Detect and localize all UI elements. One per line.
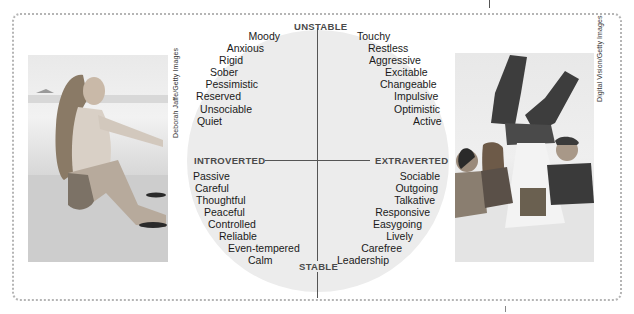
trait-thoughtful: Thoughtful xyxy=(196,194,246,206)
photo-extravert-group-handstand xyxy=(455,53,594,262)
pole-label-stable: STABLE xyxy=(297,261,340,272)
trait-unsociable: Unsociable xyxy=(200,103,252,115)
trait-optimistic: Optimistic xyxy=(394,103,440,115)
trait-active: Active xyxy=(413,115,442,127)
photo-credit-left: Deborah Jaffe/Getty Images xyxy=(172,48,179,138)
trait-even-tempered: Even-tempered xyxy=(228,242,300,254)
horizontal-axis-line-right xyxy=(317,160,370,161)
photo-introvert-woman-beach xyxy=(28,55,168,262)
group-handstand-illustration xyxy=(455,53,594,262)
trait-impulsive: Impulsive xyxy=(394,90,438,102)
trait-changeable: Changeable xyxy=(380,78,437,90)
trait-anxious: Anxious xyxy=(227,42,264,54)
top-tick-line xyxy=(489,0,490,8)
trait-moody: Moody xyxy=(248,30,280,42)
trait-restless: Restless xyxy=(368,42,408,54)
vertical-axis-line xyxy=(317,28,318,298)
trait-pessimistic: Pessimistic xyxy=(205,78,258,90)
trait-responsive: Responsive xyxy=(375,206,430,218)
trait-reserved: Reserved xyxy=(196,90,241,102)
trait-lively: Lively xyxy=(386,230,413,242)
trait-reliable: Reliable xyxy=(219,230,257,242)
trait-talkative: Talkative xyxy=(394,194,435,206)
trait-peaceful: Peaceful xyxy=(204,206,245,218)
trait-sociable: Sociable xyxy=(400,170,440,182)
trait-easygoing: Easygoing xyxy=(373,218,422,230)
trait-passive: Passive xyxy=(193,170,230,182)
trait-excitable: Excitable xyxy=(385,66,428,78)
photo-credit-right: Digital Vision/Getty Images xyxy=(596,15,603,102)
trait-leadership: Leadership xyxy=(337,254,389,266)
woman-beach-illustration xyxy=(28,55,168,262)
trait-careful: Careful xyxy=(195,182,229,194)
pole-label-extraverted: EXTRAVERTED xyxy=(373,155,450,166)
trait-controlled: Controlled xyxy=(208,218,256,230)
trait-carefree: Carefree xyxy=(361,242,402,254)
horizontal-axis-line-left xyxy=(265,160,317,161)
pole-label-unstable: UNSTABLE xyxy=(292,21,349,32)
trait-rigid: Rigid xyxy=(219,54,243,66)
bottom-tick-line xyxy=(505,306,506,312)
trait-quiet: Quiet xyxy=(197,115,222,127)
trait-touchy: Touchy xyxy=(357,30,390,42)
trait-outgoing: Outgoing xyxy=(395,182,438,194)
trait-aggressive: Aggressive xyxy=(369,54,421,66)
trait-sober: Sober xyxy=(210,66,238,78)
pole-label-introverted: INTROVERTED xyxy=(192,155,267,166)
trait-calm: Calm xyxy=(248,254,273,266)
